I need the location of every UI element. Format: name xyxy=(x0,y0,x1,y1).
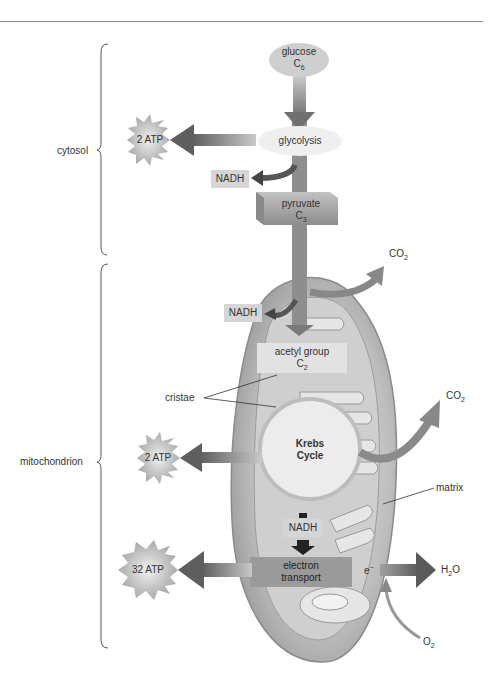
h2o-output: H2O xyxy=(441,564,460,577)
cytosol-brace xyxy=(97,44,108,255)
cellular-respiration-diagram xyxy=(0,0,496,681)
co2-output-1: CO2 xyxy=(389,248,408,261)
atp-krebs: 2 ATP xyxy=(138,452,178,463)
nadh-krebs: NADH xyxy=(283,519,323,537)
nadh-acetyl: NADH xyxy=(224,304,262,322)
glycolysis-label: glycolysis xyxy=(264,135,336,146)
mitochondrion-brace xyxy=(97,264,108,648)
cristae-label: cristae xyxy=(165,392,194,403)
acetyl-group-label: acetyl group C2 xyxy=(257,346,347,374)
glucose-arrow xyxy=(293,76,306,118)
electron-symbol: e− xyxy=(364,564,374,576)
glucose-label: glucose C6 xyxy=(269,46,329,74)
co2-output-2: CO2 xyxy=(446,390,465,403)
electron-transport-label: electron transport xyxy=(250,560,352,584)
pyruvate-label: pyruvate C3 xyxy=(264,198,338,226)
mitochondrion-label: mitochondrion xyxy=(20,456,83,467)
cytosol-label: cytosol xyxy=(57,145,88,156)
nadh-glycolysis: NADH xyxy=(211,170,249,188)
atp-glycolysis: 2 ATP xyxy=(130,134,170,145)
o2-input: O2 xyxy=(423,636,435,649)
atp-electron-transport: 32 ATP xyxy=(120,564,176,575)
matrix-label: matrix xyxy=(436,482,463,493)
krebs-cycle-label: Krebs Cycle xyxy=(280,438,340,462)
